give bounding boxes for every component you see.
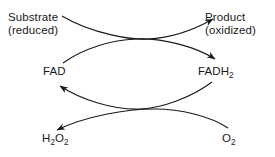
arrow-substrate-to-product <box>62 16 213 39</box>
arrow-fad-to-fadh2 <box>63 39 215 63</box>
reaction-diagram: Substrate (reduced) Product (oxidized) F… <box>0 0 275 157</box>
label-o2-base: O <box>222 132 231 144</box>
label-fad-text: FAD <box>43 65 66 77</box>
label-fad: FAD <box>43 65 66 78</box>
label-o2: O2 <box>222 132 236 146</box>
label-h2o2-subscript-2: 2 <box>64 138 69 147</box>
label-fadh2: FADH2 <box>198 65 234 79</box>
label-h2o2: H2O2 <box>42 132 69 146</box>
label-product: Product (oxidized) <box>205 11 256 37</box>
label-h2o2-subscript-1: 2 <box>50 138 55 147</box>
arrow-fadh2-to-fad <box>60 82 212 109</box>
label-fadh2-base: FADH <box>198 65 229 77</box>
label-product-line2: (oxidized) <box>205 24 256 37</box>
label-fadh2-subscript: 2 <box>229 71 234 80</box>
label-substrate: Substrate (reduced) <box>8 11 58 37</box>
arrow-o2-to-h2o2 <box>57 109 228 130</box>
label-h2o2-o: O <box>55 132 64 144</box>
label-substrate-line2: (reduced) <box>8 24 58 37</box>
label-o2-subscript: 2 <box>231 138 236 147</box>
label-product-line1: Product <box>205 11 256 24</box>
label-substrate-line1: Substrate <box>8 11 58 24</box>
